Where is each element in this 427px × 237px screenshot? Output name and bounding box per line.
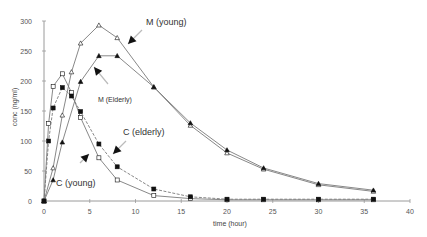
data-point [51, 84, 55, 88]
series-m-young [42, 23, 376, 203]
data-point [47, 122, 51, 126]
x-tick-label: 5 [88, 208, 92, 215]
x-tick-label: 20 [223, 208, 231, 215]
data-point [51, 166, 56, 170]
annotation-label: C (elderly) [123, 127, 165, 137]
y-tick-label: 150 [20, 108, 32, 115]
data-point [79, 116, 83, 120]
data-point [115, 178, 119, 182]
data-point [51, 106, 55, 110]
data-point [188, 195, 192, 199]
annotation-c-elderly: C (elderly) [113, 127, 165, 154]
annotation-label: M (young) [146, 17, 187, 27]
x-tick-label: 10 [132, 208, 140, 215]
data-point [79, 110, 83, 114]
data-point [152, 194, 156, 198]
y-axis-title: conc (ng/ml) [11, 88, 19, 127]
arrowhead-icon [94, 67, 102, 76]
x-tick-label: 40 [406, 208, 414, 215]
data-point [261, 166, 266, 170]
annotation-label: C (young) [56, 178, 96, 188]
data-point [60, 140, 65, 144]
x-tick-label: 25 [269, 208, 277, 215]
data-point [97, 142, 101, 146]
data-point [225, 197, 229, 201]
data-point [69, 94, 73, 98]
data-point [60, 72, 64, 76]
y-tick-label: 250 [20, 48, 32, 55]
annotation-m-young: M (young) [128, 17, 187, 44]
data-point [47, 139, 51, 143]
data-point [69, 70, 74, 74]
pk-concentration-chart: 0510152025303540050100150200250300 M (yo… [0, 0, 427, 237]
annotation-c-young: C (young) [56, 154, 96, 188]
x-axis-title: time (hour) [213, 220, 247, 228]
data-point [42, 199, 46, 203]
y-tick-label: 200 [20, 78, 32, 85]
x-tick-label: 0 [42, 208, 46, 215]
series-layer [42, 23, 376, 203]
data-point [97, 23, 102, 27]
annotation-m-elderly: M (Elderly) [94, 67, 132, 104]
x-tick-label: 15 [177, 208, 185, 215]
data-point [262, 197, 266, 201]
y-tick-label: 50 [24, 168, 32, 175]
y-tick-label: 0 [28, 198, 32, 205]
series-line [44, 25, 373, 201]
y-tick-label: 300 [20, 18, 32, 25]
data-point [115, 165, 119, 169]
data-point [97, 156, 101, 160]
data-point [115, 36, 120, 40]
data-point [317, 197, 321, 201]
y-tick-label: 100 [20, 138, 32, 145]
data-point [60, 86, 64, 90]
data-point [51, 178, 56, 182]
x-tick-label: 35 [360, 208, 368, 215]
data-point [152, 187, 156, 191]
annotation-label: M (Elderly) [98, 96, 132, 104]
data-point [60, 113, 65, 117]
data-point [371, 197, 375, 201]
x-tick-label: 30 [315, 208, 323, 215]
